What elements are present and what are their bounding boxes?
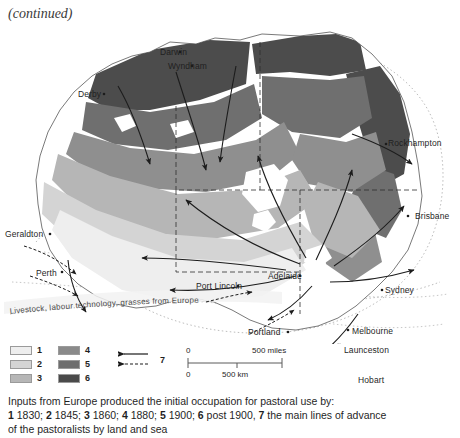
legend-item: 6 <box>58 372 90 384</box>
legend-swatch-2 <box>10 360 32 369</box>
scale-bar-rule <box>186 357 326 371</box>
legend-number-4: 4 <box>85 345 90 355</box>
scale-bar: 0 500 miles 0 500 km <box>186 346 326 384</box>
city-label-darwin: Darwin <box>160 47 187 57</box>
legend-item: 3 <box>10 372 42 384</box>
legend-column-right: 4 5 6 <box>58 344 90 386</box>
legend-item: 4 <box>58 344 90 356</box>
legend-arrow-key: 7 <box>118 348 178 378</box>
legend-number-3: 3 <box>37 373 42 383</box>
city-label-geraldton: Geraldton <box>5 229 43 239</box>
legend-column-left: 1 2 3 <box>10 344 42 386</box>
legend-number-5: 5 <box>85 359 90 369</box>
city-label-hobart: Hobart <box>358 375 384 385</box>
legend-swatch-3 <box>10 374 32 383</box>
caption-key-text: 1900; <box>166 409 198 421</box>
legend-swatch-5 <box>58 360 80 369</box>
legend-item: 5 <box>58 358 90 370</box>
city-label-adelaide: Adelaide <box>268 271 302 281</box>
legend-number-7: 7 <box>160 355 165 365</box>
legend-swatch-4 <box>58 346 80 355</box>
city-label-launceston: Launceston <box>344 345 389 355</box>
city-label-derby: Derby <box>78 89 101 99</box>
arrow-key-icon <box>118 348 162 374</box>
scale-miles-zero: 0 <box>186 346 190 355</box>
caption-line-1: Inputs from Europe produced the initial … <box>8 394 454 408</box>
city-label-port-lincoln: Port Lincoln <box>196 281 242 291</box>
city-label-brisbane: Brisbane <box>415 211 449 221</box>
legend-item: 2 <box>10 358 42 370</box>
city-label-melbourne: Melbourne <box>352 326 393 336</box>
city-label-perth: Perth <box>36 268 57 278</box>
city-label-portland: Portland <box>248 327 280 337</box>
caption-key-text: 1880; <box>128 409 160 421</box>
caption-key-text: post 1900, <box>204 409 259 421</box>
scale-miles-max: 500 miles <box>252 346 286 355</box>
legend-item: 1 <box>10 344 42 356</box>
legend-swatch-6 <box>58 374 80 383</box>
page-root: (continued) <box>0 0 460 438</box>
scale-km-zero: 0 <box>186 370 190 379</box>
legend-number-1: 1 <box>37 345 42 355</box>
legend-swatch-1 <box>10 346 32 355</box>
figure-caption: Inputs from Europe produced the initial … <box>8 394 454 436</box>
scale-km-max: 500 km <box>222 370 248 379</box>
city-label-rockhampton: Rockhampton <box>388 138 442 148</box>
legend-number-6: 6 <box>85 373 90 383</box>
caption-key-text: 1860; <box>90 409 122 421</box>
caption-key-text: 1830; <box>14 409 46 421</box>
city-label-sydney: Sydney <box>385 285 414 295</box>
legend-number-2: 2 <box>37 359 42 369</box>
caption-key-text: the main lines of advance <box>264 409 386 421</box>
caption-line-3: of the pastoralists by land and sea <box>8 422 454 436</box>
caption-line-2: 1 1830; 2 1845; 3 1860; 4 1880; 5 1900; … <box>8 408 454 422</box>
city-label-wyndham: Wyndham <box>168 61 207 71</box>
caption-key-text: 1845; <box>52 409 84 421</box>
